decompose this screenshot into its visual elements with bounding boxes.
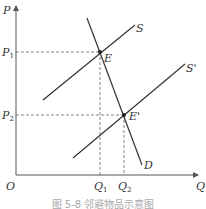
p1-label: P1	[1, 46, 14, 60]
point-label-e: E	[103, 52, 112, 65]
y-axis-label: P	[2, 4, 11, 17]
q2-label: Q2	[118, 180, 132, 194]
demand-curve-d	[87, 18, 142, 165]
supply-curve-s	[43, 25, 135, 100]
q1-label: Q1	[94, 180, 108, 194]
supply-demand-diagram: P Q O P1 P2 Q1 Q2 S S' D E E' 图 5-8 邻避物品…	[0, 0, 206, 209]
origin-label: O	[6, 180, 15, 193]
curve-label-s-prime: S'	[186, 62, 197, 75]
curve-label-d: D	[143, 159, 153, 172]
curve-label-s: S	[136, 22, 144, 35]
equilibrium-point-e-prime	[122, 113, 126, 117]
x-axis-label: Q	[196, 180, 205, 193]
equilibrium-point-e	[98, 50, 102, 54]
figure-caption: 图 5-8 邻避物品示意图	[52, 198, 155, 209]
point-label-e-prime: E'	[128, 110, 140, 123]
p2-label: P2	[1, 109, 14, 123]
